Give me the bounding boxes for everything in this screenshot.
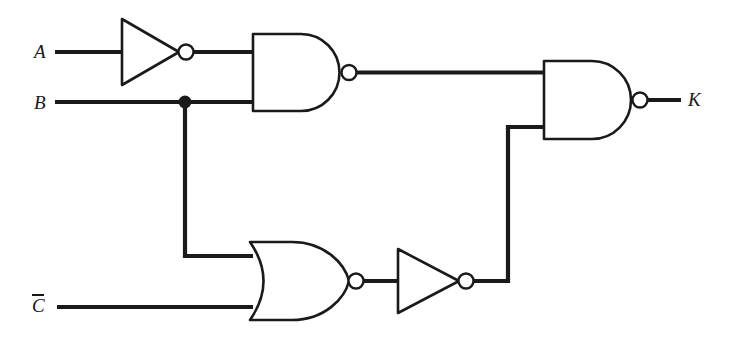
- not-gate-bubble-bottom: [459, 274, 474, 289]
- not-gate-triangle-bottom: [398, 249, 459, 313]
- wire-b-branch-to-nor: [185, 102, 253, 256]
- input-label-c-text: C: [32, 295, 45, 316]
- input-label-b-text: B: [34, 92, 46, 113]
- output-label-k: K: [688, 90, 701, 109]
- input-label-a-text: A: [34, 41, 46, 62]
- nand-gate-2-body: [544, 61, 631, 139]
- junction-dot-b: [179, 96, 192, 109]
- overbar-wrapper: C: [32, 295, 45, 315]
- nand-gate-2-bubble: [633, 93, 648, 108]
- not-gate-bubble-top: [179, 45, 194, 60]
- nand-gate-1-bubble: [342, 65, 357, 80]
- nor-gate-body: [250, 242, 349, 320]
- input-label-a: A: [34, 42, 46, 61]
- logic-circuit-diagram: A B C K: [0, 0, 736, 342]
- input-label-c-bar: C: [32, 295, 45, 315]
- wire-inv2-to-nand2: [474, 127, 545, 281]
- nor-gate-bubble: [349, 274, 364, 289]
- output-label-k-text: K: [688, 89, 701, 110]
- nand-gate-1-body: [253, 34, 340, 111]
- not-gate-triangle-top: [122, 19, 179, 85]
- input-label-b: B: [34, 93, 46, 112]
- circuit-canvas: [0, 0, 736, 342]
